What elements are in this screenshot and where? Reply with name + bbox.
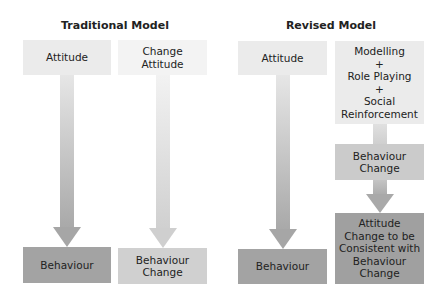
revised-attitude-box: Attitude xyxy=(238,41,327,75)
revised-right-lower-arrow-head-icon xyxy=(366,194,394,213)
trad-left-arrow-head-icon xyxy=(53,227,81,247)
revised-behaviour-box: Behaviour xyxy=(238,249,327,284)
trad-behaviour-box: Behaviour xyxy=(23,247,111,283)
revised-model-title: Revised Model xyxy=(256,19,406,32)
revised-left-arrow-head-icon xyxy=(269,229,297,249)
trad-right-arrow-shaft xyxy=(156,75,170,228)
attitude-change-consistent-box: Attitude Change to be Consistent with Be… xyxy=(335,213,424,284)
traditional-model-title: Traditional Model xyxy=(40,19,190,32)
revised-right-lower-arrow-shaft xyxy=(373,180,387,194)
modelling-roleplay-reinforcement-box: Modelling + Role Playing + Social Reinfo… xyxy=(335,41,424,124)
revised-right-upper-arrow-shaft xyxy=(373,124,387,144)
trad-left-arrow-shaft xyxy=(60,75,74,227)
trad-right-arrow-head-icon xyxy=(149,228,177,248)
revised-behaviour-change-box: Behaviour Change xyxy=(335,144,424,180)
trad-change-attitude-box: Change Attitude xyxy=(118,40,207,75)
trad-attitude-box: Attitude xyxy=(23,40,111,75)
revised-left-arrow-shaft xyxy=(276,75,290,229)
trad-behaviour-change-box: Behaviour Change xyxy=(118,248,207,284)
